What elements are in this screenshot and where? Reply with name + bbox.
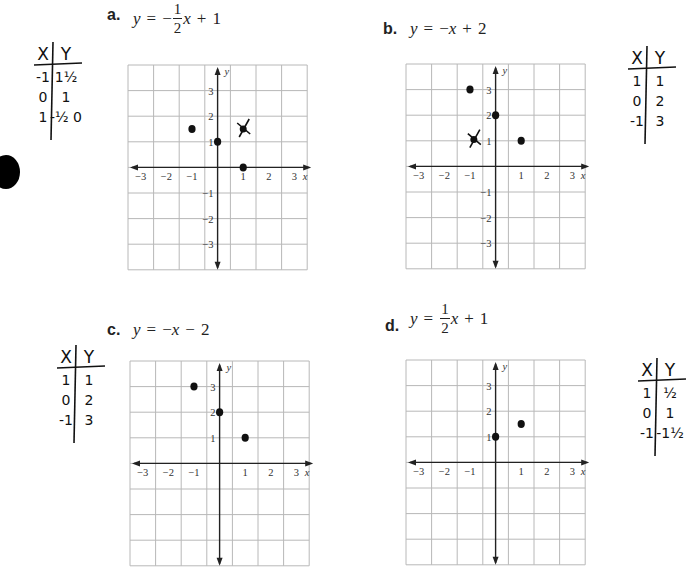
svg-text:Y: Y bbox=[664, 360, 676, 380]
svg-text:2: 2 bbox=[544, 170, 549, 181]
svg-text:3: 3 bbox=[486, 381, 491, 392]
svg-text:-1: -1 bbox=[630, 113, 644, 129]
graph-c: −3−2−1123321xy bbox=[130, 361, 315, 570]
svg-text:−2: −2 bbox=[439, 170, 450, 181]
svg-text:0: 0 bbox=[643, 405, 652, 421]
coordinate-grid: −3−2−1123321−1−2−3xy bbox=[128, 65, 313, 274]
graph-a: −3−2−1123321−1−2−3xy bbox=[128, 65, 313, 274]
svg-text:3: 3 bbox=[292, 171, 297, 182]
problem-d-equation: y = 12 x + 1 bbox=[410, 302, 488, 336]
graph-d: −3−2−1123321xy bbox=[406, 360, 591, 569]
svg-text:3: 3 bbox=[570, 170, 575, 181]
svg-text:3: 3 bbox=[570, 466, 575, 477]
svg-text:y: y bbox=[502, 65, 508, 76]
svg-text:−1: −1 bbox=[464, 170, 475, 181]
handwritten-table-a: XY-11½011-½ 0 bbox=[34, 40, 94, 154]
svg-text:y: y bbox=[226, 362, 232, 373]
svg-text:2: 2 bbox=[486, 406, 491, 417]
svg-text:0: 0 bbox=[633, 93, 642, 109]
svg-text:X: X bbox=[60, 347, 72, 367]
svg-text:3: 3 bbox=[294, 467, 299, 478]
svg-text:2: 2 bbox=[85, 392, 94, 408]
svg-text:-1: -1 bbox=[59, 412, 73, 428]
svg-text:2: 2 bbox=[656, 93, 665, 109]
svg-text:−3: −3 bbox=[137, 467, 148, 478]
svg-text:1: 1 bbox=[633, 73, 642, 89]
svg-text:-½ 0: -½ 0 bbox=[50, 109, 82, 125]
svg-text:2: 2 bbox=[486, 110, 491, 121]
eq-lhs: y bbox=[133, 9, 141, 29]
svg-text:−2: −2 bbox=[161, 171, 172, 182]
svg-text:1: 1 bbox=[208, 137, 213, 148]
xy-table: XY1102-13 bbox=[57, 343, 117, 453]
eq-equals: = bbox=[147, 9, 157, 29]
problem-c-label: c. bbox=[107, 321, 120, 339]
eq-fraction: 12 bbox=[440, 302, 450, 336]
svg-text:-1: -1 bbox=[36, 69, 50, 85]
coordinate-grid: −3−2−1123321xy bbox=[130, 361, 315, 570]
svg-text:3: 3 bbox=[656, 113, 665, 129]
xy-table: XY1½01-1-1½ bbox=[638, 356, 688, 466]
svg-text:½: ½ bbox=[663, 385, 677, 401]
eq-op: + bbox=[197, 9, 207, 29]
eq-sign: − bbox=[162, 9, 172, 29]
svg-text:2: 2 bbox=[208, 111, 213, 122]
svg-text:1: 1 bbox=[519, 170, 524, 181]
svg-text:x: x bbox=[580, 466, 586, 477]
svg-text:−3: −3 bbox=[135, 171, 146, 182]
svg-text:Y: Y bbox=[60, 44, 72, 64]
svg-text:−1: −1 bbox=[202, 188, 213, 199]
eq-fraction: 12 bbox=[173, 2, 183, 36]
problem-d-label: d. bbox=[385, 317, 399, 335]
svg-text:−1: −1 bbox=[464, 466, 475, 477]
svg-text:2: 2 bbox=[544, 466, 549, 477]
ink-blot bbox=[0, 155, 20, 189]
svg-text:1: 1 bbox=[85, 372, 94, 388]
svg-text:-1: -1 bbox=[640, 425, 654, 441]
svg-text:1: 1 bbox=[486, 136, 491, 147]
svg-text:−2: −2 bbox=[202, 214, 213, 225]
handwritten-table-c: XY1102-13 bbox=[57, 343, 117, 457]
svg-text:−2: −2 bbox=[480, 213, 491, 224]
problem-a-equation: y = − 12 x + 1 bbox=[133, 2, 221, 36]
svg-text:x: x bbox=[302, 171, 308, 182]
svg-text:1: 1 bbox=[62, 372, 71, 388]
svg-text:−1: −1 bbox=[480, 187, 491, 198]
graph-b: −3−2−1123321−1−2−3xy bbox=[406, 64, 591, 273]
svg-text:3: 3 bbox=[210, 382, 215, 393]
svg-text:Y: Y bbox=[83, 347, 95, 367]
svg-text:−2: −2 bbox=[163, 467, 174, 478]
svg-text:X: X bbox=[631, 48, 643, 68]
eq-var: x bbox=[183, 9, 191, 29]
svg-text:1: 1 bbox=[486, 432, 491, 443]
eq-const: 1 bbox=[212, 9, 221, 29]
svg-text:y: y bbox=[224, 66, 230, 77]
xy-table: XY1102-13 bbox=[628, 44, 688, 154]
xy-table: XY-11½011-½ 0 bbox=[34, 40, 94, 150]
svg-text:−1: −1 bbox=[186, 171, 197, 182]
svg-text:2: 2 bbox=[266, 171, 271, 182]
svg-text:1½: 1½ bbox=[55, 69, 77, 85]
handwritten-table-d: XY1½01-1-1½ bbox=[638, 356, 688, 470]
svg-text:x: x bbox=[304, 467, 310, 478]
coordinate-grid: −3−2−1123321xy bbox=[406, 360, 591, 569]
svg-text:2: 2 bbox=[210, 407, 215, 418]
svg-text:−3: −3 bbox=[413, 466, 424, 477]
problem-c-equation: y = − x − 2 bbox=[133, 320, 209, 340]
svg-text:X: X bbox=[641, 360, 653, 380]
svg-text:−1: −1 bbox=[188, 467, 199, 478]
problem-b-equation: y = − x + 2 bbox=[410, 19, 486, 39]
svg-text:0: 0 bbox=[39, 89, 48, 105]
problem-b-label: b. bbox=[383, 20, 397, 38]
coordinate-grid: −3−2−1123321−1−2−3xy bbox=[406, 64, 591, 273]
problem-a-label: a. bbox=[107, 6, 120, 24]
svg-text:−2: −2 bbox=[439, 466, 450, 477]
svg-text:3: 3 bbox=[486, 85, 491, 96]
svg-text:−3: −3 bbox=[413, 170, 424, 181]
svg-text:-1½: -1½ bbox=[656, 425, 684, 441]
svg-text:2: 2 bbox=[268, 467, 273, 478]
svg-text:1: 1 bbox=[643, 385, 652, 401]
svg-text:0: 0 bbox=[62, 392, 71, 408]
svg-text:1: 1 bbox=[656, 73, 665, 89]
svg-text:1: 1 bbox=[210, 433, 215, 444]
